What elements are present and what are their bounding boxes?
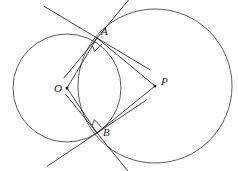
label-point-a: A [101, 26, 108, 37]
label-point-o: O [54, 83, 62, 94]
segment-pa [97, 38, 155, 86]
label-point-b: B [103, 127, 110, 138]
tangent-right-at-a-line [64, 0, 130, 78]
right-angle-at-a-marker [92, 44, 102, 52]
geometry-figure-canvas: O P A B [0, 0, 238, 171]
point-dot-o [66, 87, 69, 90]
geometry-diagram [0, 0, 238, 171]
segment-oa [67, 38, 97, 88]
segment-ob [67, 88, 97, 133]
right-angle-at-b-marker [92, 120, 102, 128]
point-dot-p [154, 85, 157, 88]
label-point-p: P [161, 76, 168, 87]
